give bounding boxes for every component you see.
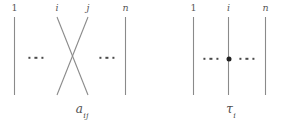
figure-canvas: 1 i j n aij 1 i xyxy=(0,0,283,121)
ellipsis-dot xyxy=(252,57,254,59)
strand-lines-a-ij xyxy=(0,0,145,121)
ellipsis-dot xyxy=(99,57,101,59)
index-label-n: n xyxy=(256,3,276,13)
ellipsis-dot xyxy=(239,57,241,59)
ellipsis-left xyxy=(203,57,218,59)
ellipsis-right xyxy=(239,57,254,59)
ellipsis-dot xyxy=(28,57,30,59)
ellipsis-dot xyxy=(216,57,218,59)
ellipsis-dot xyxy=(246,57,248,59)
diagram-a-ij: 1 i j n aij xyxy=(0,0,145,121)
index-label-1: 1 xyxy=(5,3,25,13)
index-label-i: i xyxy=(47,3,67,13)
ellipsis-dot xyxy=(203,57,205,59)
ellipsis-right xyxy=(99,57,114,59)
ellipsis-dot xyxy=(41,57,43,59)
caption-a-ij: aij xyxy=(76,103,89,118)
index-label-j: j xyxy=(78,3,98,13)
strand-lines-tau-i xyxy=(145,0,283,121)
caption-base: τ xyxy=(226,102,233,116)
ellipsis-dot xyxy=(35,57,37,59)
caption-subscript: ij xyxy=(83,111,88,120)
caption-tau-i: τi xyxy=(226,103,235,118)
ellipsis-dot xyxy=(106,57,108,59)
ellipsis-dot xyxy=(112,57,114,59)
index-label-i: i xyxy=(219,3,239,13)
marked-point-node xyxy=(226,56,231,61)
caption-subscript: i xyxy=(233,111,236,120)
index-label-n: n xyxy=(116,3,136,13)
ellipsis-left xyxy=(28,57,43,59)
index-label-1: 1 xyxy=(184,3,204,13)
ellipsis-dot xyxy=(210,57,212,59)
diagram-tau-i: 1 i n τi xyxy=(145,0,283,121)
